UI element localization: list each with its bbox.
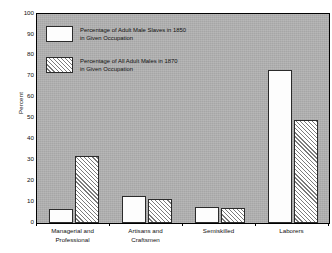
x-tick-label: Laborers — [255, 227, 328, 236]
y-tick-label: 40 — [12, 135, 34, 141]
legend-line-2: in Given Occupation — [80, 66, 178, 74]
legend-entry-slaves-1850: Percentage of Adult Male Slaves in 1850 … — [46, 26, 186, 42]
bar — [49, 209, 73, 223]
x-tick-mark — [36, 223, 37, 226]
x-tick-mark — [255, 223, 256, 226]
x-tick-label: Managerial andProfessional — [36, 227, 109, 244]
y-tick-label: 100 — [12, 10, 34, 16]
y-axis-tick-labels: 0102030405060708090100 — [8, 0, 34, 253]
x-tick-label-line: Artisans and — [109, 227, 182, 236]
y-tick-label: 80 — [12, 51, 34, 57]
x-tick-label-line: Craftsmen — [109, 236, 182, 245]
y-tick-label: 10 — [12, 198, 34, 204]
legend-entry-all-males-1870-text: Percentage of All Adult Males in 1870 in… — [80, 57, 178, 73]
x-tick-label-line: Professional — [36, 236, 109, 245]
legend-entry-slaves-1850-text: Percentage of Adult Male Slaves in 1850 … — [80, 26, 186, 42]
y-tick-label: 90 — [12, 31, 34, 37]
y-tick-label: 70 — [12, 72, 34, 78]
legend-line-1: Percentage of All Adult Males in 1870 — [80, 58, 178, 66]
y-tick-label: 20 — [12, 177, 34, 183]
y-tick-label: 0 — [12, 219, 34, 225]
y-tick-label: 30 — [12, 156, 34, 162]
legend-entry-all-males-1870: Percentage of All Adult Males in 1870 in… — [46, 57, 178, 73]
plot-area: Percentage of Adult Male Slaves in 1850 … — [36, 13, 330, 224]
legend-line-1: Percentage of Adult Male Slaves in 1850 — [80, 27, 186, 35]
bar — [221, 208, 245, 223]
bar — [75, 156, 99, 223]
y-tick-label: 60 — [12, 93, 34, 99]
legend-line-2: in Given Occupation — [80, 35, 186, 43]
x-tick-label-line: Laborers — [255, 227, 328, 236]
solid-white-swatch — [46, 26, 73, 42]
y-tick-label: 50 — [12, 114, 34, 120]
x-tick-mark — [328, 223, 329, 226]
x-tick-mark — [109, 223, 110, 226]
bar-chart: Percent 0102030405060708090100 Percentag… — [0, 0, 332, 253]
x-tick-label: Artisans andCraftsmen — [109, 227, 182, 244]
bar — [148, 199, 172, 223]
bar — [195, 207, 219, 223]
bar — [122, 196, 146, 223]
bar — [294, 120, 318, 223]
bar — [268, 70, 292, 223]
x-tick-label-line: Semiskilled — [182, 227, 255, 236]
diagonal-hatch-swatch — [46, 57, 73, 73]
x-tick-label: Semiskilled — [182, 227, 255, 236]
x-tick-label-line: Managerial and — [36, 227, 109, 236]
x-tick-mark — [182, 223, 183, 226]
x-axis-tick-labels: Managerial andProfessionalArtisans andCr… — [36, 227, 330, 253]
